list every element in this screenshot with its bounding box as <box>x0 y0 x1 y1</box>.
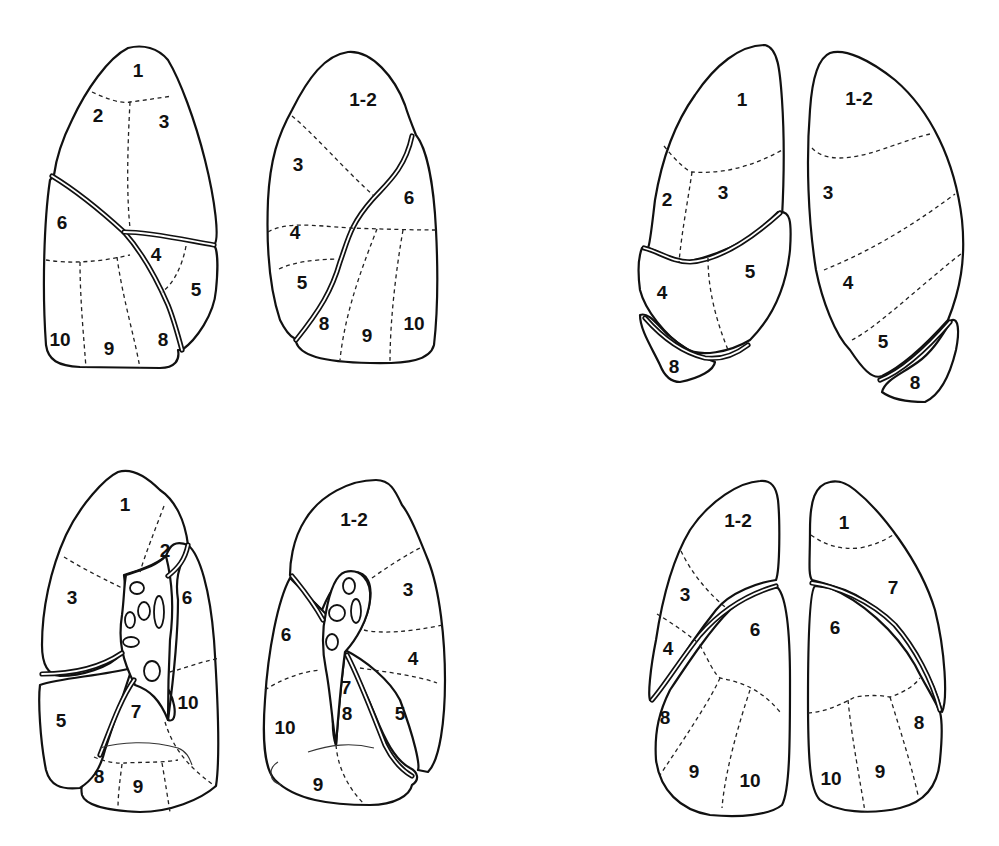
segment-label: 7 <box>131 701 142 722</box>
segment-label: 10 <box>739 770 760 791</box>
segment-label: 9 <box>362 325 373 346</box>
segment-label: 3 <box>159 111 170 132</box>
view-left-lung-posterior: 1-2 3 6 4 8 9 10 <box>649 481 790 816</box>
segment-label: 3 <box>680 584 691 605</box>
segment-label: 4 <box>408 648 419 669</box>
segment-label: 5 <box>878 331 889 352</box>
segment-label: 5 <box>191 279 202 300</box>
view-left-lung-lateral: 1-2 3 6 4 5 8 9 10 <box>268 52 439 363</box>
segment-label: 3 <box>403 579 414 600</box>
view-left-lung-medial: 1-2 3 6 4 7 10 8 5 9 <box>264 480 445 805</box>
bronchus-opening <box>125 612 135 628</box>
view-right-lung-medial: 1 2 3 6 5 7 10 8 9 <box>39 471 220 812</box>
segment-label: 9 <box>875 761 886 782</box>
bronchus-opening <box>329 605 345 621</box>
segment-label: 1-2 <box>724 510 751 531</box>
segment-label: 9 <box>313 774 324 795</box>
segment-label: 6 <box>57 212 68 233</box>
segment-label: 2 <box>93 105 104 126</box>
segment-label: 10 <box>403 313 424 334</box>
segment-label: 1 <box>737 89 748 110</box>
segment-label: 3 <box>67 587 78 608</box>
bronchus-opening <box>130 582 144 594</box>
bronchus-opening <box>123 637 139 647</box>
segment-label: 1 <box>839 512 850 533</box>
segment-label: 1 <box>133 60 144 81</box>
segment-label: 6 <box>281 624 292 645</box>
segment-label: 8 <box>158 329 169 350</box>
segment-label: 8 <box>914 712 925 733</box>
view-right-lung-anterior: 1 2 3 4 5 8 <box>639 45 791 382</box>
segment-label: 8 <box>910 372 921 393</box>
segment-label: 1 <box>120 494 131 515</box>
lung-outline <box>44 47 217 369</box>
segment-label: 3 <box>823 182 834 203</box>
segment-label: 1-2 <box>340 509 367 530</box>
segment-label: 7 <box>888 577 899 598</box>
segment-label: 10 <box>274 717 295 738</box>
segment-label: 4 <box>290 222 301 243</box>
segment-label: 6 <box>750 619 761 640</box>
view-right-lung-lateral: 1 2 3 6 4 5 10 9 8 <box>44 47 217 369</box>
bronchus-opening <box>351 599 361 623</box>
bronchus-opening <box>138 602 150 620</box>
segment-label: 9 <box>104 338 115 359</box>
segment-label: 3 <box>718 182 729 203</box>
segment-label: 9 <box>133 776 144 797</box>
segment-label: 5 <box>395 703 406 724</box>
segment-label: 9 <box>689 761 700 782</box>
vessel-opening <box>144 661 160 681</box>
segment-label: 1-2 <box>349 89 376 110</box>
segment-label: 8 <box>660 707 671 728</box>
segment-label: 5 <box>56 710 67 731</box>
bronchus-opening <box>343 578 355 594</box>
segment-label: 7 <box>341 677 352 698</box>
segment-label: 2 <box>662 189 673 210</box>
segment-label: 1-2 <box>845 88 872 109</box>
segment-label: 4 <box>663 638 674 659</box>
segment-label: 10 <box>49 329 70 350</box>
lung-segments-figure: 1 2 3 6 4 5 10 9 8 1-2 3 6 4 5 8 9 10 <box>0 0 999 846</box>
segment-label: 8 <box>319 313 330 334</box>
vessel-opening <box>154 596 164 628</box>
segment-label: 8 <box>669 356 680 377</box>
segment-label: 3 <box>293 154 304 175</box>
segment-label: 10 <box>820 768 841 789</box>
segment-label: 6 <box>404 187 415 208</box>
segment-label: 5 <box>745 261 756 282</box>
segment-label: 10 <box>177 692 198 713</box>
segment-label: 8 <box>342 703 353 724</box>
segment-label: 4 <box>151 244 162 265</box>
upper-lobe-outline <box>808 52 963 377</box>
view-left-lung-anterior: 1-2 3 4 5 8 <box>808 52 963 402</box>
segment-label: 4 <box>657 282 668 303</box>
vessel-opening <box>326 634 338 650</box>
segment-label: 6 <box>830 617 841 638</box>
segment-label: 4 <box>843 272 854 293</box>
view-right-lung-posterior: 1 7 6 8 10 9 <box>808 481 945 812</box>
segment-label: 6 <box>182 587 193 608</box>
segment-label: 5 <box>297 272 308 293</box>
segment-label: 8 <box>94 766 105 787</box>
segment-label: 2 <box>160 540 171 561</box>
